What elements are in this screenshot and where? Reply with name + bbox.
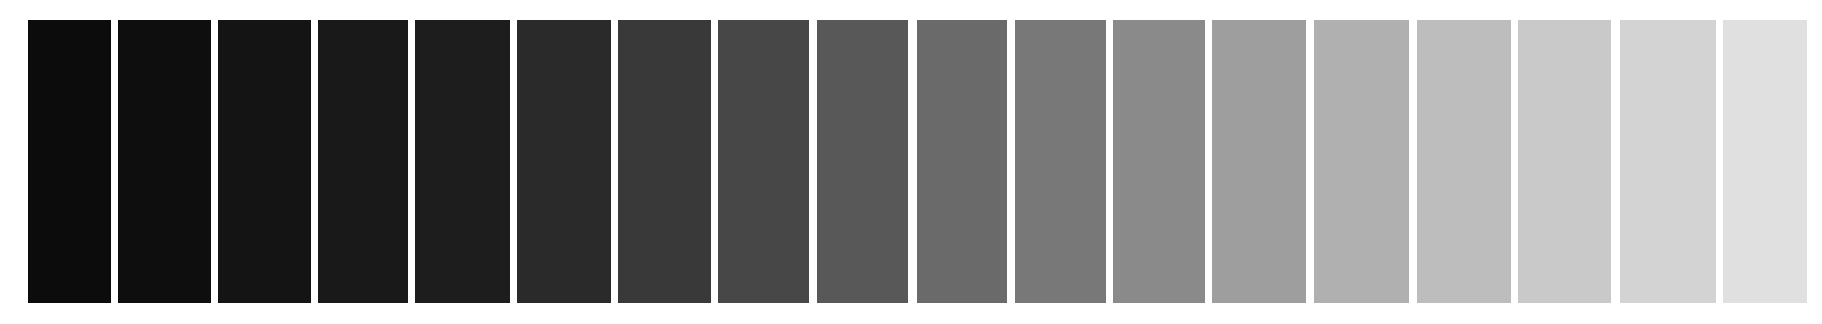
gray-step-2 (118, 20, 211, 303)
gray-step-12 (1113, 20, 1205, 303)
gray-step-18 (1723, 20, 1807, 303)
gray-step-7 (618, 20, 711, 303)
gray-step-11 (1015, 20, 1106, 303)
gray-step-6 (517, 20, 611, 303)
gray-step-4 (318, 20, 408, 303)
gray-step-3 (218, 20, 311, 303)
grayscale-step-wedge (0, 0, 1822, 324)
gray-step-8 (718, 20, 809, 303)
gray-step-14 (1314, 20, 1409, 303)
gray-step-17 (1620, 20, 1716, 303)
gray-step-1 (28, 20, 111, 303)
gray-step-13 (1212, 20, 1306, 303)
gray-step-9 (817, 20, 908, 303)
gray-step-15 (1417, 20, 1511, 303)
gray-step-5 (415, 20, 510, 303)
gray-step-16 (1518, 20, 1611, 303)
gray-step-10 (917, 20, 1007, 303)
